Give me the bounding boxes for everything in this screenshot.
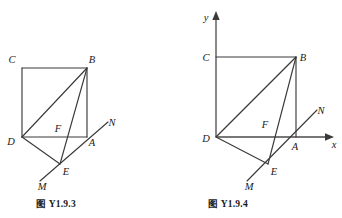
left-label-B: B bbox=[89, 54, 96, 65]
left-segment-DE bbox=[22, 137, 60, 164]
right-line-MN bbox=[247, 110, 317, 181]
left-label-C: C bbox=[8, 54, 16, 65]
left-line-MN bbox=[40, 122, 108, 181]
right-label-x-axis: x bbox=[331, 139, 337, 150]
right-diagonal-DB bbox=[216, 57, 296, 137]
right-label-E: E bbox=[270, 166, 278, 177]
right-label-D: D bbox=[201, 133, 210, 144]
figure-page: C B D A E F M N y x C B D bbox=[0, 0, 342, 218]
figure-caption-left: 图 Y1.9.3 bbox=[36, 196, 76, 210]
left-label-M: M bbox=[37, 181, 48, 192]
right-label-A: A bbox=[291, 141, 299, 152]
right-label-B: B bbox=[300, 52, 307, 63]
right-label-F: F bbox=[261, 119, 269, 130]
left-label-E: E bbox=[62, 166, 70, 177]
left-label-N: N bbox=[107, 117, 116, 128]
right-label-C: C bbox=[202, 52, 210, 63]
left-label-F: F bbox=[54, 123, 62, 134]
right-segment-DE bbox=[216, 137, 268, 164]
right-label-N: N bbox=[316, 105, 325, 116]
right-label-M: M bbox=[244, 181, 255, 192]
left-label-A: A bbox=[88, 137, 96, 148]
y-axis-arrowhead bbox=[212, 11, 219, 20]
figure-right-y1-9-4: y x C B D A E F M N bbox=[201, 11, 336, 192]
figure-left-y1-9-3: C B D A E F M N bbox=[6, 54, 116, 192]
right-label-y-axis: y bbox=[203, 12, 209, 23]
left-label-D: D bbox=[6, 136, 15, 147]
figure-caption-right: 图 Y1.9.4 bbox=[208, 196, 248, 210]
geometry-diagram-canvas: C B D A E F M N y x C B D bbox=[0, 0, 342, 218]
